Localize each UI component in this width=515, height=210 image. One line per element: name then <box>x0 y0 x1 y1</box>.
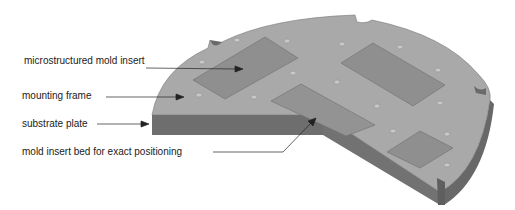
substrate-side-face-left <box>152 115 323 135</box>
label-substrate-plate: substrate plate <box>22 118 88 130</box>
mold-plate-figure <box>0 0 515 210</box>
notch-bottom <box>437 178 445 205</box>
label-microstructured-mold-insert: microstructured mold insert <box>24 55 145 67</box>
label-mold-insert-bed: mold insert bed for exact positioning <box>22 146 182 158</box>
label-mounting-frame: mounting frame <box>22 90 91 102</box>
